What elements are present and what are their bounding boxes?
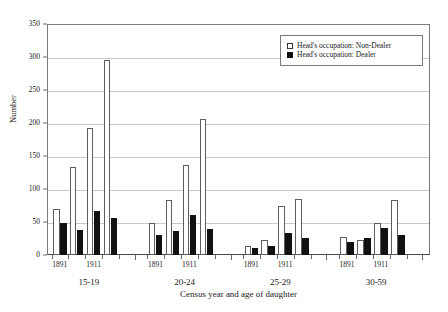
bar-dealer-20-24-4: [207, 229, 214, 255]
bar-dealer-25-29-2: [268, 246, 275, 255]
bar-nondealer-30-59-4: [391, 200, 398, 255]
x-tick-mark-25-29-4: [294, 255, 295, 259]
x-axis-title: Census year and age of daughter: [47, 289, 430, 299]
x-tick-mark-20-24-3: [181, 255, 182, 259]
x-tick-mark-25-29-1: [243, 255, 244, 259]
bar-dealer-30-59-1: [347, 242, 354, 255]
x-tick-mark-30-59-1: [339, 255, 340, 259]
y-axis-title: Number: [8, 74, 18, 144]
y-tick-label-100: 100: [29, 185, 40, 193]
bar-nondealer-25-29-3: [278, 206, 285, 256]
bar-dealer-15-19-3: [94, 211, 101, 255]
y-tick-label-200: 200: [29, 119, 40, 127]
bar-nondealer-20-24-2: [166, 200, 173, 255]
bar-nondealer-15-19-1: [53, 209, 60, 255]
x-axis: 1891191115-191891191120-241891191125-291…: [47, 255, 430, 312]
x-tick-mark-25-29-3: [277, 255, 278, 259]
x-tick-mark-15-19-2: [68, 255, 69, 259]
bar-nondealer-25-29-1: [245, 246, 252, 255]
bar-dealer-30-59-4: [398, 235, 405, 255]
bar-dealer-30-59-3: [381, 228, 388, 255]
x-tick-mark-30-59-end: [407, 255, 408, 259]
x-tick-mark-30-59-2: [356, 255, 357, 259]
bar-nondealer-25-29-2: [261, 240, 268, 255]
x-tick-mark-25-29-2: [260, 255, 261, 259]
bar-nondealer-30-59-3: [374, 223, 381, 255]
x-year-label-30-59-1911: 1911: [374, 261, 389, 269]
x-tick-mark-30-59-3: [373, 255, 374, 259]
x-group-label-25-29: 25-29: [270, 277, 291, 287]
bar-nondealer-15-19-3: [87, 128, 94, 255]
bar-nondealer-15-19-2: [70, 167, 77, 255]
bar-nondealer-30-59-2: [357, 240, 364, 255]
legend: Head's occupation: Non-DealerHead's occu…: [280, 35, 423, 66]
x-tick-mark-15-19-1: [52, 255, 53, 259]
x-tick-mark-15-19-4: [102, 255, 103, 259]
y-tick-label-150: 150: [29, 152, 40, 160]
bar-dealer-25-29-1: [252, 248, 259, 255]
x-year-label-30-59-1891: 1891: [340, 261, 355, 269]
legend-swatch-dealer-icon: [287, 52, 293, 58]
x-tick-mark-20-24-end: [215, 255, 216, 259]
bar-nondealer-30-59-1: [340, 237, 347, 255]
x-year-label-25-29-1891: 1891: [244, 261, 259, 269]
x-tick-mark-20-24-1: [147, 255, 148, 259]
legend-label-dealer: Head's occupation: Dealer: [297, 51, 376, 59]
x-group-separator-15-19: [135, 255, 136, 260]
x-year-label-20-24-1911: 1911: [182, 261, 197, 269]
bar-chart: 050100150200250300350 Number 1891191115-…: [0, 0, 448, 312]
x-tick-mark-15-19-3: [85, 255, 86, 259]
bar-nondealer-20-24-4: [200, 119, 207, 255]
x-group-label-20-24: 20-24: [174, 277, 195, 287]
x-group-separator-20-24: [231, 255, 232, 260]
bar-dealer-20-24-2: [173, 231, 180, 255]
bar-nondealer-20-24-3: [183, 165, 190, 255]
y-tick-label-300: 300: [29, 53, 40, 61]
bar-dealer-25-29-3: [285, 233, 292, 255]
x-year-label-25-29-1911: 1911: [278, 261, 293, 269]
y-tick-label-0: 0: [36, 251, 40, 259]
x-group-label-30-59: 30-59: [366, 277, 387, 287]
bar-dealer-15-19-1: [60, 223, 67, 255]
x-tick-mark-25-29-end: [311, 255, 312, 259]
bar-dealer-20-24-1: [156, 235, 163, 255]
x-group-separator-30-59: [422, 255, 423, 260]
bar-nondealer-25-29-4: [295, 199, 302, 255]
y-tick-label-250: 250: [29, 86, 40, 94]
x-tick-mark-15-19-end: [119, 255, 120, 259]
bar-nondealer-20-24-1: [149, 223, 156, 255]
bar-dealer-15-19-2: [77, 230, 84, 255]
x-group-separator-25-29: [326, 255, 327, 260]
legend-item-dealer: Head's occupation: Dealer: [287, 51, 417, 59]
x-year-label-20-24-1891: 1891: [148, 261, 163, 269]
y-tick-label-50: 50: [33, 218, 41, 226]
bar-dealer-15-19-4: [111, 218, 118, 255]
bar-dealer-25-29-4: [302, 238, 309, 255]
bar-dealer-20-24-3: [190, 215, 197, 255]
legend-label-nondealer: Head's occupation: Non-Dealer: [297, 42, 391, 50]
x-group-label-15-19: 15-19: [78, 277, 99, 287]
y-tick-label-350: 350: [29, 20, 40, 28]
bar-nondealer-15-19-4: [104, 60, 111, 255]
x-tick-mark-20-24-2: [164, 255, 165, 259]
x-tick-mark-20-24-4: [198, 255, 199, 259]
x-tick-mark-30-59-4: [390, 255, 391, 259]
x-year-label-15-19-1891: 1891: [52, 261, 67, 269]
bar-dealer-30-59-2: [364, 238, 371, 255]
legend-swatch-nondealer-icon: [287, 43, 293, 49]
x-year-label-15-19-1911: 1911: [86, 261, 101, 269]
legend-item-nondealer: Head's occupation: Non-Dealer: [287, 42, 417, 50]
